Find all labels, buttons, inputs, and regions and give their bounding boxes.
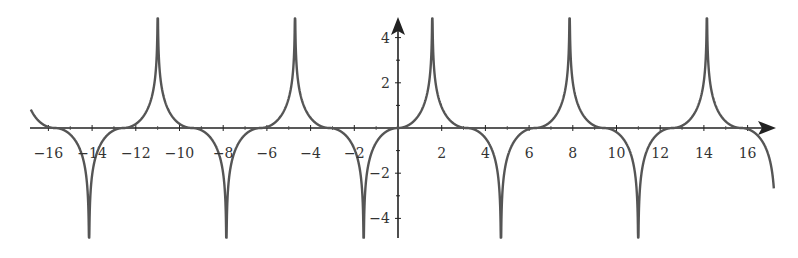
y-tick-label: −4 [369,210,390,226]
x-tick-label: 12 [651,145,669,161]
x-tick-label: 6 [525,145,534,161]
x-tick-label: 14 [695,145,713,161]
x-tick-label: −6 [257,145,278,161]
x-tick-label: 8 [568,145,577,161]
x-tick-label: −12 [121,145,151,161]
x-tick-label: −8 [213,145,234,161]
x-tick-label: 2 [437,145,446,161]
y-tick-label: −2 [369,165,390,181]
x-tick-label: −10 [165,145,195,161]
function-plot: −16−14−12−10−8−6−4−2246810121416−4−224 [0,0,798,258]
x-tick-label: −2 [344,145,365,161]
y-tick-label: 4 [381,30,390,46]
x-tick-label: −4 [300,145,321,161]
x-tick-label: −14 [77,145,107,161]
x-tick-label: −16 [34,145,64,161]
x-tick-label: 10 [608,145,626,161]
x-tick-label: 4 [481,145,490,161]
y-tick-label: 2 [381,75,390,91]
x-tick-label: 16 [739,145,757,161]
